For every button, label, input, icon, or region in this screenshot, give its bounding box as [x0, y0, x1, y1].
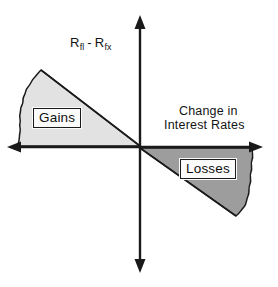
losses-region-shape	[140, 148, 253, 216]
x-axis-left-arrowhead	[7, 142, 21, 153]
interest-rate-gains-losses-figure: Rfl-Rfx Change inInterest Rates Gains Lo…	[0, 0, 278, 287]
y-axis-down-arrowhead	[135, 259, 146, 273]
x-axis-right-arrowhead	[249, 142, 263, 153]
gains-region-shape	[16, 70, 140, 146]
y-axis-up-arrowhead	[135, 15, 146, 29]
figure-canvas	[0, 0, 278, 287]
